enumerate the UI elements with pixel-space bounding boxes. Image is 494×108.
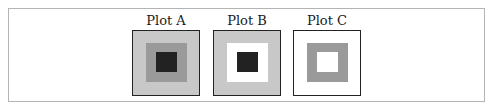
plot-b-inner-square: [237, 52, 258, 72]
plot-a-inner-square: [156, 52, 177, 72]
plot-c-outer-square: [293, 30, 361, 96]
plot-b-middle-square: [227, 43, 268, 82]
plot-a: Plot A: [131, 0, 201, 100]
plot-c-middle-square: [307, 43, 348, 82]
plot-c-inner-square: [317, 52, 338, 72]
plot-c-title: Plot C: [282, 14, 372, 28]
plot-b-outer-square: [213, 30, 281, 96]
plot-b: Plot B: [212, 0, 282, 100]
plot-a-title: Plot A: [121, 14, 211, 28]
plot-c: Plot C: [292, 0, 362, 100]
plot-a-outer-square: [132, 30, 200, 96]
plot-b-title: Plot B: [202, 14, 292, 28]
plot-a-middle-square: [146, 43, 187, 82]
